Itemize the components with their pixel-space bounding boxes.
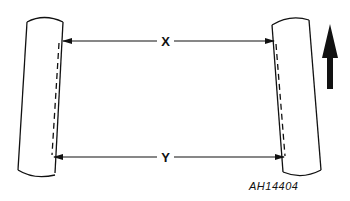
dimension-x: X [63, 34, 274, 49]
direction-arrow-icon [322, 24, 338, 89]
left-wheel-dashed-line [52, 43, 59, 155]
toe-in-diagram: X Y AH14404 [0, 0, 350, 201]
dimension-y-label: Y [161, 150, 170, 165]
reference-code: AH14404 [248, 180, 298, 192]
left-wheel [18, 18, 63, 177]
dimension-x-label: X [161, 34, 170, 49]
dimension-y: Y [54, 150, 284, 165]
right-wheel [272, 18, 321, 176]
